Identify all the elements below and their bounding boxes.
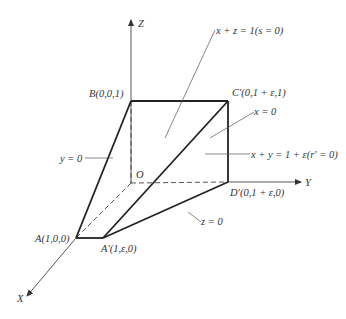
origin-label: O	[136, 169, 144, 180]
x-axis	[27, 238, 76, 296]
x-axis-label: X	[16, 293, 24, 304]
plane-z0-label: z = 0	[200, 216, 223, 227]
plane-xz-label: x + z = 1(s = 0)	[215, 25, 284, 37]
polyhedron-diagram: Z Y X O B(0,0,1) C′(0,1 + ε,1) D′(0,1 + …	[0, 0, 346, 319]
point-b-label: B(0,0,1)	[89, 88, 124, 100]
point-c-prime-label: C′(0,1 + ε,1)	[232, 87, 286, 99]
point-d-prime-label: D′(0,1 + ε,0)	[229, 187, 285, 199]
point-a-label: A(1,0,0)	[34, 233, 70, 245]
point-a-prime-label: A′(1,ε,0)	[100, 243, 137, 255]
plane-x0-label: x = 0	[253, 106, 277, 117]
z-axis-label: Z	[138, 18, 144, 29]
plane-xy-label: x + y = 1 + ε(r′ = 0)	[250, 149, 338, 161]
y-axis-label: Y	[305, 177, 312, 188]
plane-y0-label: y = 0	[59, 153, 83, 164]
